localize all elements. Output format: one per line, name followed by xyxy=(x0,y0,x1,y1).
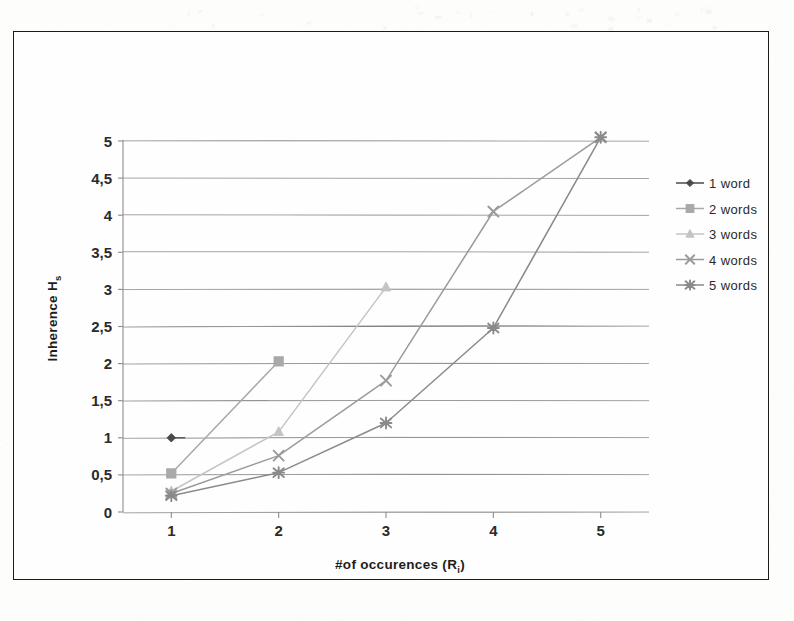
x-axis-ticks-group: 12345 xyxy=(167,512,605,539)
y-axis-tick-label: 0,5 xyxy=(91,466,112,483)
series-line xyxy=(171,137,600,493)
gridlines-group xyxy=(123,140,649,513)
data-point-star xyxy=(273,467,284,478)
x-axis-tick-label: 2 xyxy=(274,522,282,539)
x-axis-title-text: #of occurences (Ri) xyxy=(335,557,465,575)
line-chart: 00,511,522,533,544,55 12345 #of occurenc… xyxy=(14,32,770,581)
y-axis-tick-label: 3,5 xyxy=(91,244,112,261)
data-point-square xyxy=(167,469,176,478)
legend-item-4[interactable]: 4 words xyxy=(676,253,757,268)
legend-label: 4 words xyxy=(709,253,757,268)
legend-label: 1 word xyxy=(709,176,750,191)
series-line xyxy=(171,287,386,491)
gridline xyxy=(123,437,649,438)
legend-item-1[interactable]: 1 word xyxy=(676,176,750,191)
data-point-star xyxy=(685,280,694,289)
x-axis-tick-label: 3 xyxy=(382,522,390,539)
gridline xyxy=(123,215,649,216)
series-5 xyxy=(166,132,606,501)
y-axis-title: Inherence Hs xyxy=(45,275,63,361)
series-3 xyxy=(167,282,391,495)
data-point-star xyxy=(595,132,606,143)
data-point-star xyxy=(381,418,392,429)
y-axis-title-text: Inherence Hs xyxy=(45,275,63,361)
series-line xyxy=(171,361,278,473)
gridline xyxy=(123,363,649,364)
data-point-cross xyxy=(381,376,391,386)
y-axis-tick-label: 1 xyxy=(104,429,112,446)
legend-item-5[interactable]: 5 words xyxy=(676,278,757,293)
legend-item-2[interactable]: 2 words xyxy=(676,202,757,217)
y-axis-tick-label: 0 xyxy=(104,504,112,521)
data-point-square xyxy=(274,357,283,366)
x-axis-title: #of occurences (Ri) xyxy=(335,557,465,575)
data-point-cross xyxy=(274,451,284,461)
legend-item-3[interactable]: 3 words xyxy=(676,227,757,242)
data-point-star xyxy=(488,323,499,334)
y-axis-tick-label: 5 xyxy=(104,133,112,150)
y-axis-tick-label: 2,5 xyxy=(91,318,112,335)
legend-label: 5 words xyxy=(709,278,757,293)
data-point-square xyxy=(686,205,694,213)
y-axis-tick-label: 4 xyxy=(104,207,113,224)
figure-frame: 00,511,522,533,544,55 12345 #of occurenc… xyxy=(13,31,769,580)
y-axis-tick-label: 3 xyxy=(104,281,112,298)
chart-legend: 1 word2 words3 words4 words5 words xyxy=(676,176,757,293)
series-line xyxy=(171,137,600,495)
data-point-star xyxy=(166,490,177,501)
series-group xyxy=(166,132,606,501)
series-4 xyxy=(166,132,605,498)
data-point-triangle xyxy=(381,282,391,291)
legend-label: 3 words xyxy=(709,227,757,242)
x-axis-tick-label: 5 xyxy=(597,522,605,539)
gridline xyxy=(123,326,649,327)
x-axis-tick-label: 4 xyxy=(489,522,498,539)
y-axis-tick-label: 4,5 xyxy=(91,170,112,187)
y-axis-tick-label: 2 xyxy=(104,355,112,372)
gridline xyxy=(123,400,649,401)
y-axis-ticks-group: 00,511,522,533,544,55 xyxy=(91,133,123,521)
y-axis-tick-label: 1,5 xyxy=(91,392,112,409)
data-point-diamond xyxy=(686,179,693,186)
gridline xyxy=(123,252,649,253)
legend-label: 2 words xyxy=(709,202,757,217)
x-axis-tick-label: 1 xyxy=(167,522,175,539)
